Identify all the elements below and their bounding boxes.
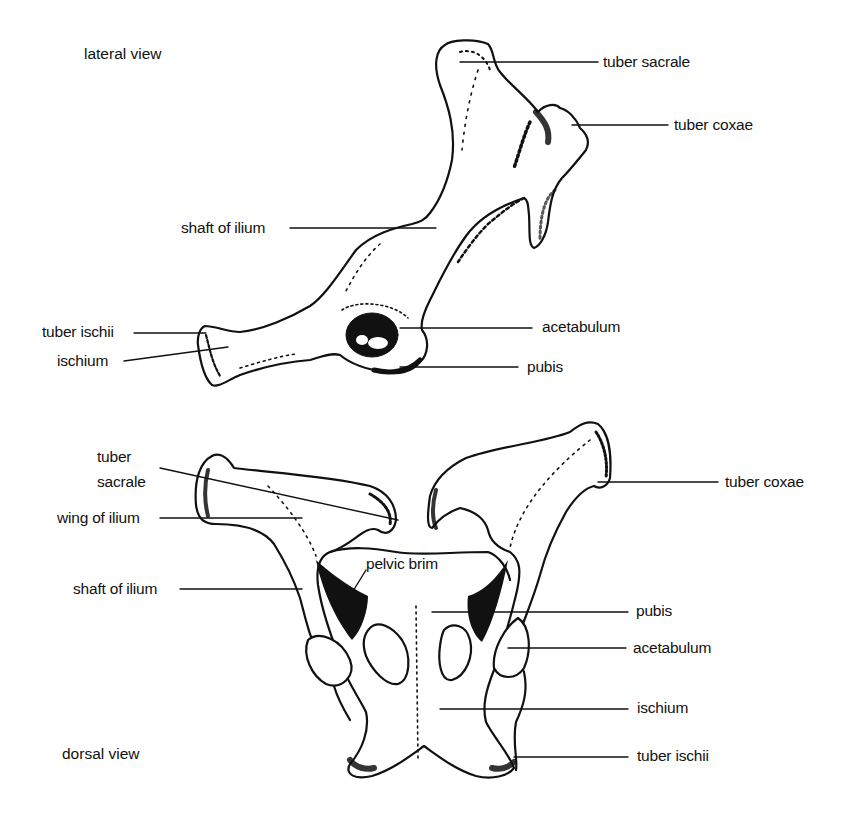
label-lateral-tuber-sacrale: tuber sacrale	[603, 53, 690, 71]
label-lateral-ischium: ischium	[57, 352, 108, 370]
lateral-view-title: lateral view	[84, 45, 162, 63]
label-dorsal-ischium: ischium	[637, 699, 688, 717]
label-dorsal-tuber-sacrale: tuber sacrale	[97, 444, 146, 494]
label-dorsal-shaft-of-ilium: shaft of ilium	[73, 580, 157, 598]
label-lateral-tuber-coxae: tuber coxae	[674, 116, 753, 134]
label-dorsal-wing-of-ilium: wing of ilium	[57, 509, 140, 527]
pelvis-anatomy-figure: lateral view tuber sacrale tuber coxae s…	[0, 0, 852, 819]
label-lateral-pubis: pubis	[527, 358, 563, 376]
label-dorsal-tuber-ischii: tuber ischii	[637, 747, 709, 765]
label-dorsal-acetabulum: acetabulum	[633, 639, 711, 657]
dorsal-view-title: dorsal view	[62, 745, 140, 763]
label-dorsal-pubis: pubis	[636, 602, 672, 620]
label-lateral-acetabulum: acetabulum	[542, 318, 620, 336]
label-lateral-shaft-of-ilium: shaft of ilium	[181, 219, 265, 237]
label-dorsal-tuber-coxae: tuber coxae	[725, 473, 804, 491]
lateral-view-bone	[198, 40, 588, 385]
label-dorsal-pelvic-brim: pelvic brim	[366, 555, 438, 573]
label-lateral-tuber-ischii: tuber ischii	[42, 323, 114, 341]
dorsal-view-bone	[196, 422, 611, 777]
